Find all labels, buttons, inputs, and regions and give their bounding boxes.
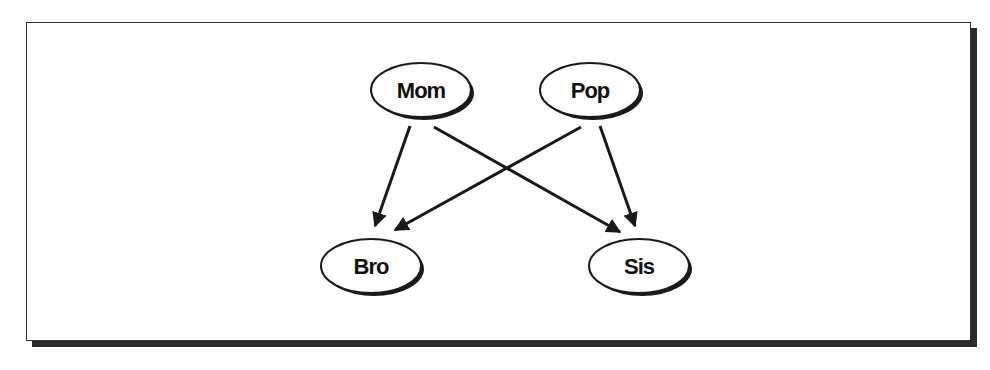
- node-bro[interactable]: Bro: [321, 239, 424, 296]
- edge-pop-bro: [395, 127, 581, 230]
- family-graph: Mom Pop Bro Sis: [0, 0, 990, 370]
- node-label: Pop: [571, 78, 610, 103]
- node-pop[interactable]: Pop: [540, 63, 643, 120]
- edge-mom-bro: [375, 126, 410, 226]
- node-label: Sis: [624, 254, 655, 279]
- node-mom[interactable]: Mom: [371, 63, 474, 120]
- node-label: Bro: [354, 254, 389, 279]
- edge-mom-sis: [434, 127, 620, 232]
- node-sis[interactable]: Sis: [589, 239, 692, 296]
- edge-pop-sis: [600, 126, 635, 226]
- node-label: Mom: [397, 78, 446, 103]
